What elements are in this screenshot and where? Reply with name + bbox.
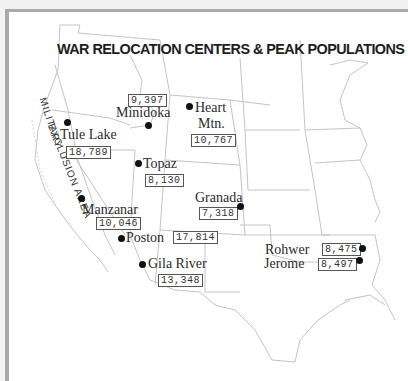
gila-river-dot[interactable]: [139, 261, 146, 268]
minidoka-label: Minidoka: [116, 106, 170, 120]
heart-mtn-label-line2: Mtn.: [198, 117, 225, 131]
tule-lake-dot[interactable]: [64, 119, 71, 126]
tule-lake-population: 18,789: [66, 146, 111, 159]
heart-mtn-dot[interactable]: [186, 103, 193, 110]
manzanar-population: 10,046: [96, 217, 141, 230]
heart-mtn-population: 10,767: [191, 134, 236, 147]
tule-lake-label: Tule Lake: [60, 128, 117, 142]
heart-mtn-label-line1: Heart: [195, 101, 226, 115]
manzanar-dot[interactable]: [78, 195, 85, 202]
granada-label: Granada: [195, 191, 242, 205]
poston-population: 17,814: [173, 231, 218, 244]
rohwer-dot[interactable]: [359, 245, 366, 252]
poston-dot[interactable]: [118, 235, 125, 242]
gila-river-label: Gila River: [148, 257, 207, 271]
gila-river-population: 13,348: [158, 274, 203, 287]
granada-dot[interactable]: [237, 203, 244, 210]
topaz-dot[interactable]: [135, 160, 142, 167]
topaz-population: 8,130: [145, 174, 184, 187]
map-title: WAR RELOCATION CENTERS & PEAK POPULATION…: [57, 40, 404, 58]
rohwer-label: Rohwer: [265, 243, 309, 257]
poston-label: Poston: [126, 231, 164, 245]
granada-population: 7,318: [199, 207, 238, 220]
minidoka-dot[interactable]: [145, 122, 152, 129]
manzanar-label: Manzanar: [82, 203, 138, 217]
topaz-label: Topaz: [143, 157, 177, 171]
rohwer-population: 8,475: [322, 243, 361, 256]
jerome-label: Jerome: [264, 257, 304, 271]
jerome-dot[interactable]: [356, 257, 363, 264]
jerome-population: 8,497: [318, 258, 357, 271]
